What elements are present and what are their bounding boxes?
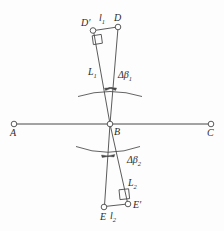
node-marker-d [115,24,121,30]
line-b-to-d [110,28,118,124]
point-label-b: B [114,127,120,137]
figure-container: A B C D D′ E E′ l1 l2 L1 L2 Δβ1 Δβ2 [0,0,224,231]
line-b-to-e [105,124,111,206]
L2-sub: 2 [134,183,137,190]
l1-sub: 1 [102,18,105,25]
node-marker-a [11,121,17,127]
diagram-canvas [0,0,224,231]
angle-label-delta-beta-1: Δβ1 [118,70,132,83]
delta-beta-2-base: Δβ [127,154,138,165]
L1-sub: 1 [94,72,97,79]
delta-beta-1-base: Δβ [118,69,129,80]
angle-label-delta-beta-2: Δβ2 [127,155,141,168]
point-label-eprime: E′ [133,200,141,210]
delta-beta-1-sub: 1 [129,75,132,82]
arc-delta-beta-1 [78,92,142,97]
segment-label-l2: l2 [110,211,116,224]
node-marker-eprime [125,201,131,207]
segment-label-L1: L1 [88,67,97,80]
l2-sub: 2 [113,216,116,223]
point-label-d: D [114,13,121,23]
point-label-a: A [10,128,16,138]
segment-l1-dprime-d [94,27,118,31]
segment-l2-e-eprime [105,204,128,207]
segment-label-l1: l1 [99,13,105,26]
node-marker-e [101,204,107,210]
node-marker-b [107,121,113,127]
segment-label-L2: L2 [128,178,137,191]
delta-beta-2-sub: 2 [138,160,141,167]
node-marker-c [208,121,214,127]
point-label-dprime: D′ [81,18,90,28]
point-label-e: E [100,212,106,222]
right-angle-marker-upper [92,34,102,44]
node-marker-dprime [90,28,96,34]
point-label-c: C [207,128,214,138]
